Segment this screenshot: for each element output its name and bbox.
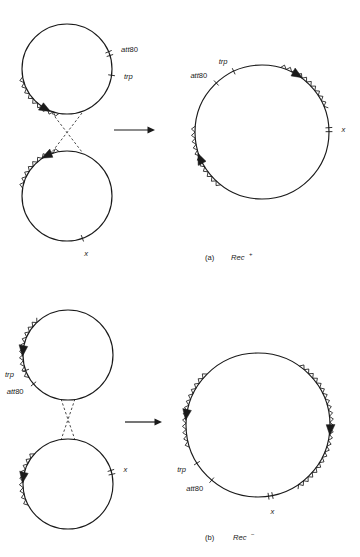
panel-b-lower-circle-zigzag-0: [19, 454, 34, 505]
panel-a-product-circle-label-0-text: trp: [219, 57, 228, 66]
panel-a-lower-circle-label-0-text-gene: x: [83, 249, 89, 258]
panel-a-upper-circle-zigzag-0: [20, 77, 59, 116]
panel-b-product-circle-backbone: [186, 353, 330, 497]
panel-b-product-circle-label-1-text: att80: [186, 484, 203, 493]
panel-a-caption-index: (a): [205, 253, 215, 262]
panel-a-lower-circle: x: [20, 149, 112, 258]
panel-a-lower-circle-backbone: [22, 151, 112, 241]
panel-b-lower-circle-backbone: [23, 439, 113, 529]
panel-b-caption-gene: Rec: [233, 533, 247, 542]
panel-a-upper-circle: att80trp: [20, 24, 138, 116]
panel-a-product-circle: trpatt80x: [190, 57, 346, 199]
panel-a-upper-circle-label-1-text: trp: [124, 72, 133, 81]
panel-a-product-circle-label-0-text-gene: trp: [219, 57, 228, 66]
panel-b-product-circle-zigzag-0: [182, 374, 207, 447]
panel-b-upper-circle-label-1-text-number: 80: [15, 387, 23, 396]
orientation-arrowhead: [326, 425, 335, 436]
panel-b-product-circle-label-0-text-gene: trp: [177, 465, 186, 474]
panel-a-upper-circle-label-0-text: att80: [121, 45, 138, 54]
panel-b-product-circle-label-2-text: x: [270, 507, 276, 516]
svg-text:(a): (a): [205, 253, 215, 262]
panel-b: trpatt80 x trpatt80x (b) Rec −: [5, 310, 335, 542]
panel-b-lower-circle-label-0: x: [108, 465, 129, 475]
svg-text:+: +: [249, 251, 253, 257]
zigzag-segment: [191, 126, 220, 185]
panel-b-product-circle: trpatt80x: [177, 353, 335, 516]
panel-b-crossover: [61, 399, 75, 440]
panel-b-reaction-arrow: [125, 419, 162, 426]
panel-b-upper-circle: trpatt80: [5, 310, 113, 400]
svg-text:Rec: Rec: [233, 533, 247, 542]
panel-b-product-circle-label-2-text-gene: x: [270, 507, 276, 516]
panel-a-product-circle-zigzag-1: [191, 126, 220, 185]
panel-b-caption-superscript: −: [251, 531, 255, 537]
reaction-arrow-head: [155, 419, 163, 426]
marker-tick-double: [268, 493, 269, 500]
panel-a-product-circle-label-1-text-number: 80: [199, 71, 207, 80]
panel-b-right-group: trpatt80x: [177, 353, 335, 516]
panel-b-left-group: trpatt80 x: [5, 310, 129, 529]
marker-tick: [194, 461, 200, 465]
panel-b-upper-circle-label-0-text-gene: trp: [5, 370, 14, 379]
panel-a-product-circle-label-2-text-gene: x: [340, 125, 346, 134]
zigzag-segment: [20, 149, 59, 188]
panel-b-product-circle-label-0-text: trp: [177, 465, 186, 474]
reaction-arrow-head: [148, 127, 156, 134]
marker-tick: [108, 75, 115, 76]
panel-a-right-group: trpatt80x: [190, 57, 346, 199]
panel-a-lower-circle-zigzag-0: [20, 149, 59, 188]
panel-b-upper-circle-label-1: att80: [7, 382, 36, 396]
panel-a-caption: (a) Rec +: [205, 251, 253, 262]
panel-a-upper-circle-label-0-text-number: 80: [130, 45, 138, 54]
panel-a: att80trp x trpatt80x (a) Rec +: [20, 24, 347, 262]
svg-text:Rec: Rec: [231, 253, 245, 262]
panel-a-product-circle-label-2-text: x: [340, 125, 346, 134]
panel-a-lower-circle-label-0: x: [81, 235, 89, 258]
orientation-arrowhead: [38, 103, 50, 112]
orientation-arrowhead: [20, 471, 29, 483]
panel-b-upper-circle-label-1-text: att80: [7, 387, 24, 396]
panel-b-lower-circle-label-0-text: x: [123, 465, 129, 474]
panel-a-product-circle-label-1-text: att80: [190, 71, 207, 80]
panel-a-lower-circle-label-0-text: x: [83, 249, 89, 258]
panel-a-reaction-arrow: [114, 127, 155, 134]
panel-a-caption-superscript: +: [249, 251, 253, 257]
svg-text:(b): (b): [205, 533, 215, 542]
panel-b-product-circle-label-1: att80: [186, 478, 214, 494]
panel-b-upper-circle-backbone: [23, 310, 113, 400]
panel-b-product-circle-label-0: trp: [177, 461, 200, 473]
panel-b-caption-index: (b): [205, 533, 215, 542]
panel-b-lower-circle: x: [19, 439, 128, 529]
panel-a-upper-circle-label-1-text-gene: trp: [124, 72, 133, 81]
panel-b-upper-circle-label-0-text: trp: [5, 370, 14, 379]
panel-b-caption: (b) Rec −: [205, 531, 255, 542]
panel-a-product-circle-label-1: att80: [190, 71, 218, 86]
panel-a-left-group: att80trp x: [20, 24, 138, 258]
panel-a-upper-circle-backbone: [22, 24, 112, 114]
orientation-arrowhead: [291, 68, 302, 78]
genetic-recombination-diagram: att80trp x trpatt80x (a) Rec + trpatt80 …: [0, 0, 360, 557]
svg-text:−: −: [251, 531, 255, 537]
panel-b-upper-circle-zigzag-0: [19, 318, 37, 378]
panel-a-product-circle-backbone: [195, 65, 329, 199]
orientation-arrowhead: [198, 153, 206, 165]
panel-a-crossover: [52, 113, 82, 152]
panel-a-caption-gene: Rec: [231, 253, 245, 262]
panel-b-product-circle-label-1-text-number: 80: [195, 484, 203, 493]
panel-b-lower-circle-label-0-text-gene: x: [123, 465, 129, 474]
